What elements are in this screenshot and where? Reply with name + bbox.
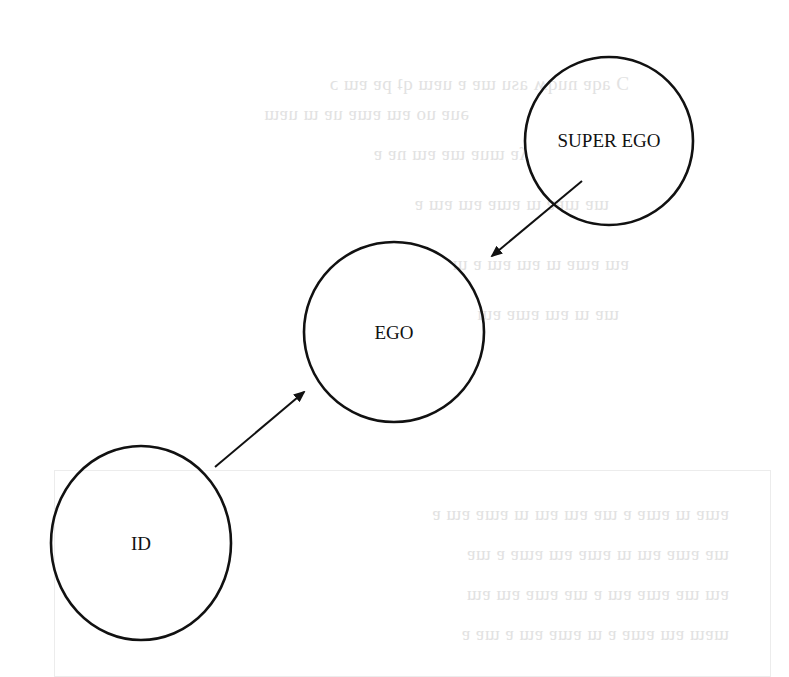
ego-label: EGO [374,322,413,343]
node-id: ID [51,446,231,640]
arrow-id-to-ego [215,392,304,467]
node-ego: EGO [304,242,484,422]
super-ego-label: SUPER EGO [558,130,661,151]
node-super-ego: SUPER EGO [525,57,693,225]
id-label: ID [131,533,151,554]
arrow-super-ego-to-ego [492,181,582,256]
psyche-structure-diagram: SUPER EGO EGO ID [0,0,789,677]
